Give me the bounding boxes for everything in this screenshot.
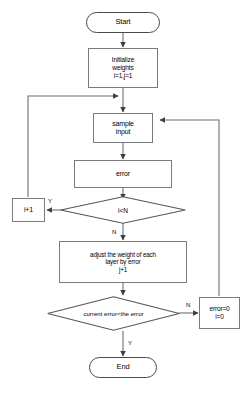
node-sample-input[interactable]: sample input [93, 113, 153, 143]
node-error[interactable]: error [74, 160, 172, 188]
node-error-label: error [75, 170, 171, 178]
node-decision-current-error-label: current error<the error [83, 310, 143, 317]
node-adjust-weights[interactable]: adjust the weight of each layer by error… [59, 241, 187, 283]
node-reset-error-label: error=0 i=0 [200, 305, 239, 320]
node-decision-i-less-than-n-label: i<N [118, 207, 128, 214]
node-adjust-weights-label: adjust the weight of each layer by error… [60, 251, 186, 273]
edge-label-i-lt-n-yes: Y [48, 198, 52, 204]
node-increment-i-label: i+1 [13, 206, 44, 214]
edge-label-current-error-yes: Y [128, 340, 132, 346]
node-start-label: Start [87, 18, 159, 27]
node-sample-input-label: sample input [94, 120, 152, 137]
node-decision-i-less-than-n[interactable]: i<N [60, 196, 186, 224]
node-end-label: End [90, 363, 156, 372]
node-increment-i[interactable]: i+1 [12, 198, 45, 222]
flowchart-canvas: Start Initialize weights i=1,j=1 sample … [0, 0, 247, 396]
node-reset-error[interactable]: error=0 i=0 [199, 297, 240, 329]
node-initialize-weights[interactable]: Initialize weights i=1,j=1 [88, 48, 158, 88]
node-initialize-weights-label: Initialize weights i=1,j=1 [89, 56, 157, 79]
node-decision-current-error[interactable]: current error<the error [47, 296, 180, 331]
edge-label-current-error-no: N [186, 302, 190, 308]
edge-label-i-lt-n-no: N [112, 229, 116, 235]
node-start[interactable]: Start [86, 12, 160, 33]
node-end[interactable]: End [89, 357, 157, 378]
